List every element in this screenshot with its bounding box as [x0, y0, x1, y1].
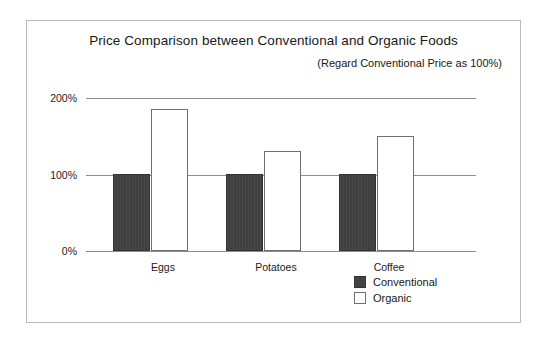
bar-coffee-conventional[interactable]: [339, 174, 376, 251]
legend-label-conventional: Conventional: [373, 276, 437, 288]
chart-title: Price Comparison between Conventional an…: [27, 33, 520, 48]
chart-figure: Price Comparison between Conventional an…: [26, 20, 521, 323]
legend-label-organic: Organic: [373, 292, 412, 304]
legend-item-conventional[interactable]: Conventional: [354, 274, 502, 289]
legend-item-organic[interactable]: Organic: [354, 290, 502, 305]
x-axis-label-eggs: Eggs: [113, 261, 213, 273]
legend-swatch-conventional-icon: [354, 276, 366, 288]
y-axis-tick-0: 0%: [62, 245, 77, 257]
legend-swatch-organic-icon: [354, 292, 366, 304]
y-axis-tick-100: 100%: [50, 169, 77, 181]
bar-eggs-organic[interactable]: [151, 109, 188, 251]
bar-coffee-organic[interactable]: [377, 136, 414, 251]
x-axis-label-coffee: Coffee: [339, 261, 439, 273]
chart-subtitle: (Regard Conventional Price as 100%): [317, 57, 502, 69]
plot-area: 200% 100% 0% Eggs Potatoes Coffee: [86, 98, 476, 251]
bar-eggs-conventional[interactable]: [113, 174, 150, 251]
bar-group-eggs: Eggs: [113, 98, 213, 251]
chart-legend: Conventional Organic: [354, 274, 502, 306]
bar-potatoes-organic[interactable]: [264, 151, 301, 251]
x-axis-label-potatoes: Potatoes: [226, 261, 326, 273]
axis-baseline-0: [86, 251, 476, 252]
y-axis-tick-200: 200%: [50, 92, 77, 104]
bar-group-potatoes: Potatoes: [226, 98, 326, 251]
bar-group-coffee: Coffee: [339, 98, 439, 251]
bar-potatoes-conventional[interactable]: [226, 174, 263, 251]
